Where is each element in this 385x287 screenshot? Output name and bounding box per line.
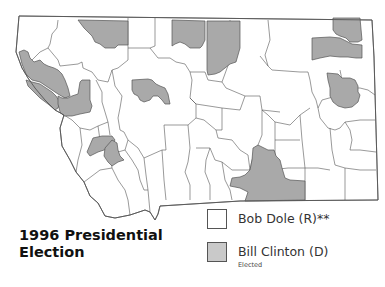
legend-item-dole: Bob Dole (R)** <box>207 209 329 229</box>
legend-swatch-clinton <box>207 242 227 262</box>
legend-label-clinton: Bill Clinton (D) <box>238 245 328 259</box>
legend-swatch-dole <box>207 209 227 229</box>
title-line-1: 1996 Presidential <box>19 227 163 244</box>
title-line-2: Election <box>19 244 163 261</box>
legend-sublabel-clinton: Elected <box>238 261 328 269</box>
map-title: 1996 Presidential Election <box>19 227 163 261</box>
legend-label-dole: Bob Dole (R)** <box>238 212 329 226</box>
legend-item-clinton: Bill Clinton (D) Elected <box>207 242 328 269</box>
